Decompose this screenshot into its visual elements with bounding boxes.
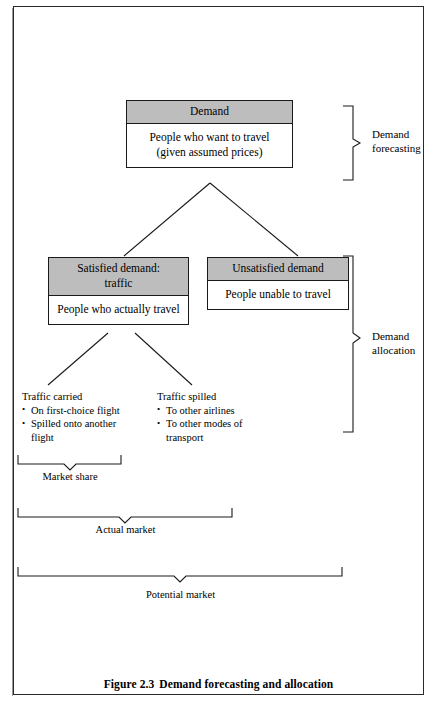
node-unsatisfied-demand-header: Unsatisfied demand <box>208 258 348 281</box>
leaf-traffic-spilled: Traffic spilled To other airlines To oth… <box>157 390 267 444</box>
leaf-traffic-carried-title: Traffic carried <box>22 390 138 404</box>
brace-market-share <box>18 455 121 470</box>
connector-satisfied-to-spilled <box>135 333 192 385</box>
brace-actual-market <box>18 508 232 523</box>
list-item: On first-choice flight <box>22 404 138 418</box>
node-unsatisfied-demand-body: People unable to travel <box>208 281 348 309</box>
connector-demand-to-unsatisfied <box>210 183 298 256</box>
node-demand: Demand People who want to travel (given … <box>126 100 293 168</box>
bracket-demand-forecasting <box>343 106 360 180</box>
leaf-traffic-carried-list: On first-choice flight Spilled onto anot… <box>22 404 138 445</box>
figure-page: Demand People who want to travel (given … <box>0 0 439 709</box>
brace-label-actual-market: Actual market <box>18 523 233 536</box>
node-unsatisfied-demand: Unsatisfied demand People unable to trav… <box>207 257 349 310</box>
list-item: Spilled onto another flight <box>22 417 138 444</box>
figure-caption-title: Demand forecasting and allocation <box>159 678 333 690</box>
leaf-traffic-spilled-list: To other airlines To other modes of tran… <box>157 404 267 445</box>
connector-satisfied-to-carried <box>48 333 108 385</box>
connector-demand-to-satisfied <box>124 183 210 256</box>
node-satisfied-demand-header-line2: traffic <box>51 276 186 291</box>
bracket-label-demand-allocation: Demand allocation <box>372 330 430 357</box>
node-demand-body-line1: People who want to travel <box>131 130 288 145</box>
node-demand-header: Demand <box>127 101 292 124</box>
bracket-label-demand-allocation-line2: allocation <box>372 344 430 358</box>
node-demand-body-line2: (given assumed prices) <box>131 145 288 160</box>
list-item: To other airlines <box>157 404 267 418</box>
brace-label-potential-market: Potential market <box>18 588 343 601</box>
figure-caption: Figure 2.3Demand forecasting and allocat… <box>13 678 424 690</box>
diagram-canvas: Demand People who want to travel (given … <box>0 0 439 709</box>
node-satisfied-demand-body: People who actually travel <box>49 296 188 324</box>
leaf-traffic-carried: Traffic carried On first-choice flight S… <box>22 390 138 444</box>
node-satisfied-demand-header-line1: Satisfied demand: <box>51 261 186 276</box>
brace-label-market-share: Market share <box>18 470 122 483</box>
bracket-label-demand-forecasting-line2: forecasting <box>372 142 430 156</box>
leaf-traffic-spilled-title: Traffic spilled <box>157 390 267 404</box>
bracket-label-demand-allocation-line1: Demand <box>372 330 430 344</box>
brace-potential-market <box>18 567 342 582</box>
node-satisfied-demand: Satisfied demand: traffic People who act… <box>48 257 189 325</box>
node-satisfied-demand-header: Satisfied demand: traffic <box>49 258 188 296</box>
figure-caption-number: Figure 2.3 <box>104 678 155 690</box>
bracket-label-demand-forecasting-line1: Demand <box>372 128 430 142</box>
bracket-label-demand-forecasting: Demand forecasting <box>372 128 430 155</box>
node-demand-body: People who want to travel (given assumed… <box>127 124 292 167</box>
list-item: To other modes of transport <box>157 417 267 444</box>
